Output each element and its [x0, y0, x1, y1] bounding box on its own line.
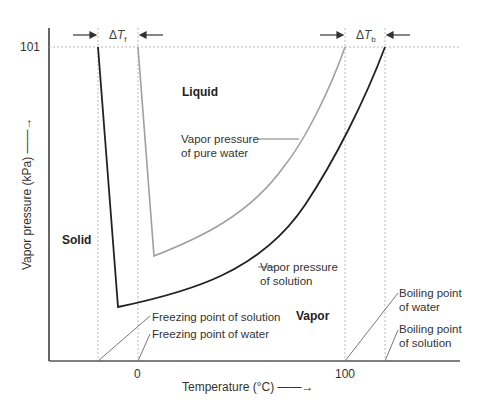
solution-label: Vapor pressureof solution	[260, 260, 338, 288]
region-solid: Solid	[62, 233, 91, 247]
delta-sub: b	[371, 35, 375, 44]
arrow-up-icon: ——→	[20, 118, 34, 154]
label-line: Boiling point	[399, 286, 462, 300]
x-axis-label: Temperature (°C) ——→	[182, 380, 314, 394]
pure-water-label: Vapor pressureof pure water	[181, 132, 259, 160]
x-tick-0: 0	[134, 367, 141, 381]
x-tick-100: 100	[335, 367, 355, 381]
freeze-water-label: Freezing point of water	[152, 327, 269, 341]
label-line: of solution	[399, 336, 462, 350]
boil-solution-label: Boiling pointof solution	[399, 322, 462, 350]
label-line: Boiling point	[399, 322, 462, 336]
x-axis-label-text: Temperature (°C)	[182, 380, 274, 394]
label-line: Vapor pressure	[181, 132, 259, 146]
delta-tf-label: ΔTf	[109, 28, 127, 47]
label-line: of water	[399, 300, 462, 314]
y-tick-101: 101	[20, 40, 40, 54]
boil-water-label: Boiling pointof water	[399, 286, 462, 314]
label-line: of solution	[260, 274, 338, 288]
label-line: of pure water	[181, 146, 259, 160]
y-axis-label: Vapor pressure (kPa) ——→	[20, 118, 34, 271]
delta-sub: f	[124, 35, 126, 44]
region-liquid: Liquid	[182, 85, 218, 99]
y-axis-label-text: Vapor pressure (kPa)	[20, 157, 34, 270]
arrow-right-icon: ——→	[278, 380, 314, 394]
delta-symbol: Δ	[356, 28, 364, 42]
delta-tb-label: ΔTb	[356, 28, 376, 47]
delta-symbol: Δ	[109, 28, 117, 42]
freeze-solution-label: Freezing point of solution	[152, 310, 281, 324]
label-line: Vapor pressure	[260, 260, 338, 274]
region-vapor: Vapor	[296, 309, 329, 323]
